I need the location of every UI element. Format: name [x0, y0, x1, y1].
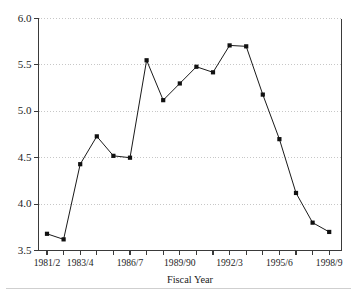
data-point-marker — [62, 237, 66, 241]
data-point-marker — [294, 191, 298, 195]
axis-lines — [39, 19, 342, 251]
x-tick-label: 1986/7 — [117, 257, 144, 268]
y-tick-label: 5.0 — [18, 104, 32, 116]
x-tick-label: 1989/90 — [164, 257, 196, 268]
data-point-marker — [178, 81, 182, 85]
data-point-marker — [311, 221, 315, 225]
data-point-marker — [327, 230, 331, 234]
y-tick-label: 4.5 — [18, 151, 32, 163]
data-point-marker — [95, 134, 99, 138]
data-point-marker — [145, 58, 149, 62]
data-point-marker — [211, 70, 215, 74]
gridlines — [39, 19, 342, 205]
x-axis-tick-labels: 1981/21983/41986/71989/901992/31995/6199… — [34, 257, 343, 268]
y-tick-label: 6.0 — [18, 12, 32, 24]
data-point-marker — [45, 232, 49, 236]
data-point-marker — [194, 65, 198, 69]
x-tick-label: 1998/9 — [316, 257, 343, 268]
line-chart: 3.54.04.55.05.56.0 1981/21983/41986/7198… — [0, 0, 357, 300]
x-axis-ticks — [47, 251, 329, 256]
x-tick-label: 1995/6 — [266, 257, 293, 268]
y-tick-label: 3.5 — [18, 244, 32, 256]
y-axis-tick-labels: 3.54.04.55.05.56.0 — [18, 12, 32, 256]
x-tick-label: 1981/2 — [34, 257, 61, 268]
y-axis-ticks — [34, 19, 39, 251]
chart-figure: 3.54.04.55.05.56.0 1981/21983/41986/7198… — [0, 0, 357, 300]
y-tick-label: 4.0 — [18, 197, 32, 209]
data-point-marker — [161, 98, 165, 102]
data-point-marker — [228, 43, 232, 47]
data-point-marker — [78, 162, 82, 166]
data-point-marker — [261, 93, 265, 97]
x-tick-label: 1983/4 — [67, 257, 94, 268]
data-point-marker — [111, 154, 115, 158]
data-point-marker — [244, 44, 248, 48]
data-line-series — [47, 45, 329, 239]
x-axis-title: Fiscal Year — [167, 274, 214, 285]
data-point-markers — [45, 43, 331, 241]
y-tick-label: 5.5 — [18, 58, 32, 70]
data-point-marker — [128, 156, 132, 160]
x-tick-label: 1992/3 — [216, 257, 243, 268]
data-point-marker — [277, 137, 281, 141]
